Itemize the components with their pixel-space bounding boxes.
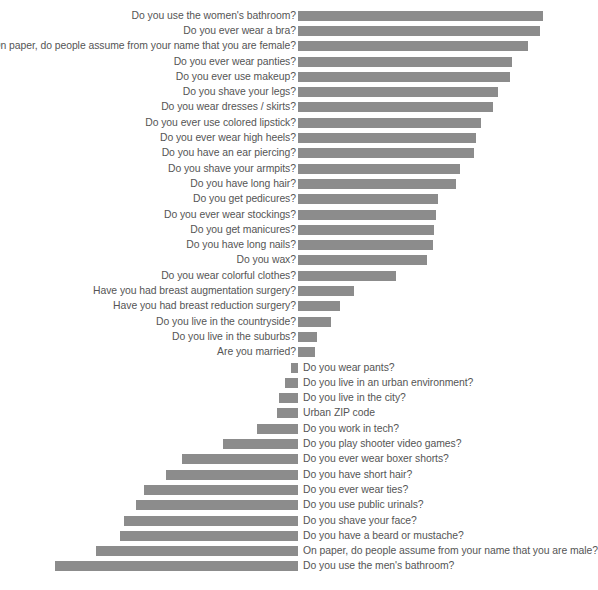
chart-bar-row: Do you ever wear boxer shorts? xyxy=(0,452,595,467)
chart-bar-label: Do you use the women's bathroom? xyxy=(132,10,296,22)
chart-bar-label: Have you had breast reduction surgery? xyxy=(113,300,296,312)
chart-bar-label: Do you get pedicures? xyxy=(193,193,296,205)
chart-bar-label: Do you have long nails? xyxy=(186,239,296,251)
chart-bar-label: Do you ever use colored lipstick? xyxy=(145,117,296,129)
chart-bar-row: Do you ever wear ties? xyxy=(0,482,595,497)
chart-bar xyxy=(298,317,331,327)
chart-bar xyxy=(277,408,298,418)
chart-bar-label: Have you had breast augmentation surgery… xyxy=(93,285,296,297)
chart-bar xyxy=(96,546,298,556)
chart-bar-row: Urban ZIP code xyxy=(0,406,595,421)
chart-bar xyxy=(298,332,317,342)
chart-bar-label: Do you ever wear a bra? xyxy=(183,25,296,37)
chart-bar xyxy=(124,516,298,526)
chart-bar-label: Do you have an ear piercing? xyxy=(162,147,296,159)
chart-bar-label: On paper, do people assume from your nam… xyxy=(303,545,598,557)
chart-bar xyxy=(298,87,498,97)
chart-bar xyxy=(136,500,298,510)
chart-bar-row: On paper, do people assume from your nam… xyxy=(0,544,595,559)
chart-bar-row: Do you have an ear piercing? xyxy=(0,146,595,161)
chart-bar-label: Do you wax? xyxy=(236,254,296,266)
chart-bar-row: Do you live in the countryside? xyxy=(0,314,595,329)
chart-bar xyxy=(298,347,315,357)
chart-bar-row: Do you wear pants? xyxy=(0,360,595,375)
chart-bar xyxy=(298,255,427,265)
chart-bar-row: Do you live in the suburbs? xyxy=(0,329,595,344)
chart-bar-label: Do you wear dresses / skirts? xyxy=(161,101,296,113)
chart-bar xyxy=(298,225,434,235)
chart-bar xyxy=(298,286,354,296)
chart-bar xyxy=(298,194,438,204)
chart-bar xyxy=(298,72,510,82)
chart-bar-label: Do you live in the city? xyxy=(303,392,406,404)
chart-bar-label: Do you use public urinals? xyxy=(303,499,424,511)
chart-bar-row: Do you get manicures? xyxy=(0,222,595,237)
chart-bar-label: Do you have long hair? xyxy=(190,178,296,190)
chart-bar-label: Do you live in an urban environment? xyxy=(303,377,473,389)
chart-bar-row: Do you ever use makeup? xyxy=(0,69,595,84)
chart-bar-label: Do you use the men's bathroom? xyxy=(303,560,454,572)
chart-bar xyxy=(298,11,543,21)
chart-bar-row: Do you ever wear high heels? xyxy=(0,130,595,145)
chart-bar xyxy=(298,301,340,311)
chart-bar-row: Do you live in the city? xyxy=(0,391,595,406)
chart-bar-row: Do you play shooter video games? xyxy=(0,436,595,451)
chart-bar xyxy=(285,378,298,388)
chart-bar xyxy=(223,439,298,449)
chart-bar-row: Do you wear colorful clothes? xyxy=(0,268,595,283)
chart-bar xyxy=(257,424,298,434)
chart-bar xyxy=(182,454,298,464)
chart-bar xyxy=(166,470,298,480)
chart-bar-label: Do you ever wear ties? xyxy=(303,484,408,496)
chart-bar-row: Are you married? xyxy=(0,345,595,360)
chart-bar-label: Do you wear colorful clothes? xyxy=(161,270,296,282)
chart-bar-label: Do you have a beard or mustache? xyxy=(303,530,464,542)
chart-bar-row: Do you have a beard or mustache? xyxy=(0,528,595,543)
chart-bar xyxy=(298,102,493,112)
chart-bar-label: Do you shave your face? xyxy=(303,515,417,527)
chart-bar-label: Do you ever wear high heels? xyxy=(160,132,296,144)
chart-bar-row: Do you use the women's bathroom? xyxy=(0,8,595,23)
chart-bar-label: Do you shave your legs? xyxy=(183,86,296,98)
chart-bar-row: Do you live in an urban environment? xyxy=(0,375,595,390)
chart-bar-label: On paper, do people assume from your nam… xyxy=(0,40,296,52)
chart-bar xyxy=(55,561,298,571)
chart-bar-label: Do you play shooter video games? xyxy=(303,438,461,450)
chart-bar-label: Do you have short hair? xyxy=(303,469,412,481)
chart-bar-row: Do you work in tech? xyxy=(0,421,595,436)
chart-bar xyxy=(298,179,456,189)
chart-bar-row: Do you get pedicures? xyxy=(0,192,595,207)
chart-bar-row: Do you use the men's bathroom? xyxy=(0,559,595,574)
chart-bar-row: Do you use public urinals? xyxy=(0,498,595,513)
chart-bar-label: Do you ever use makeup? xyxy=(176,71,296,83)
chart-bar-label: Do you wear pants? xyxy=(303,362,395,374)
chart-bar-row: Do you shave your face? xyxy=(0,513,595,528)
chart-bar-row: Do you wax? xyxy=(0,253,595,268)
chart-bar-label: Urban ZIP code xyxy=(303,407,375,419)
chart-bar xyxy=(298,133,476,143)
chart-bar xyxy=(298,26,540,36)
chart-bar xyxy=(144,485,298,495)
chart-bar-label: Do you ever wear stockings? xyxy=(164,209,296,221)
chart-bar-row: Do you wear dresses / skirts? xyxy=(0,100,595,115)
chart-bar-row: Do you ever wear a bra? xyxy=(0,23,595,38)
chart-bar-row: Do you have short hair? xyxy=(0,467,595,482)
chart-bar-row: Have you had breast augmentation surgery… xyxy=(0,283,595,298)
chart-bar-row: Do you ever wear panties? xyxy=(0,54,595,69)
chart-bar-label: Do you get manicures? xyxy=(190,224,296,236)
chart-bar xyxy=(298,57,512,67)
chart-bar-row: Do you ever use colored lipstick? xyxy=(0,115,595,130)
chart-bar-row: Do you have long hair? xyxy=(0,176,595,191)
chart-bar xyxy=(120,531,298,541)
chart-bar-label: Do you ever wear boxer shorts? xyxy=(303,453,449,465)
chart-bar-label: Do you live in the suburbs? xyxy=(172,331,296,343)
chart-bar-row: Do you have long nails? xyxy=(0,238,595,253)
chart-bar-row: Do you ever wear stockings? xyxy=(0,207,595,222)
chart-bar-row: On paper, do people assume from your nam… xyxy=(0,39,595,54)
chart-bar xyxy=(298,41,528,51)
chart-bar-label: Do you work in tech? xyxy=(303,423,399,435)
chart-bar xyxy=(298,118,481,128)
chart-bar xyxy=(298,148,474,158)
chart-bar xyxy=(298,164,460,174)
